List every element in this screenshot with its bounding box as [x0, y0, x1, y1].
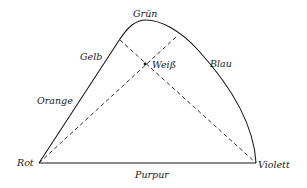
label-violet: Violett [258, 159, 290, 170]
label-blue: Blau [209, 58, 232, 69]
label-green: Grün [133, 8, 157, 19]
dashed-line-yellow-violet [120, 40, 256, 163]
label-yellow: Gelb [80, 51, 102, 62]
white-point [144, 63, 147, 66]
label-red: Rot [16, 157, 34, 168]
label-orange: Orange [37, 95, 73, 106]
label-purple: Purpur [134, 169, 170, 180]
spectral-curve [39, 20, 256, 163]
label-white: Weiß [152, 59, 176, 70]
color-triangle-diagram: Grün Gelb Weiß Blau Orange Rot Violett P… [0, 0, 307, 188]
